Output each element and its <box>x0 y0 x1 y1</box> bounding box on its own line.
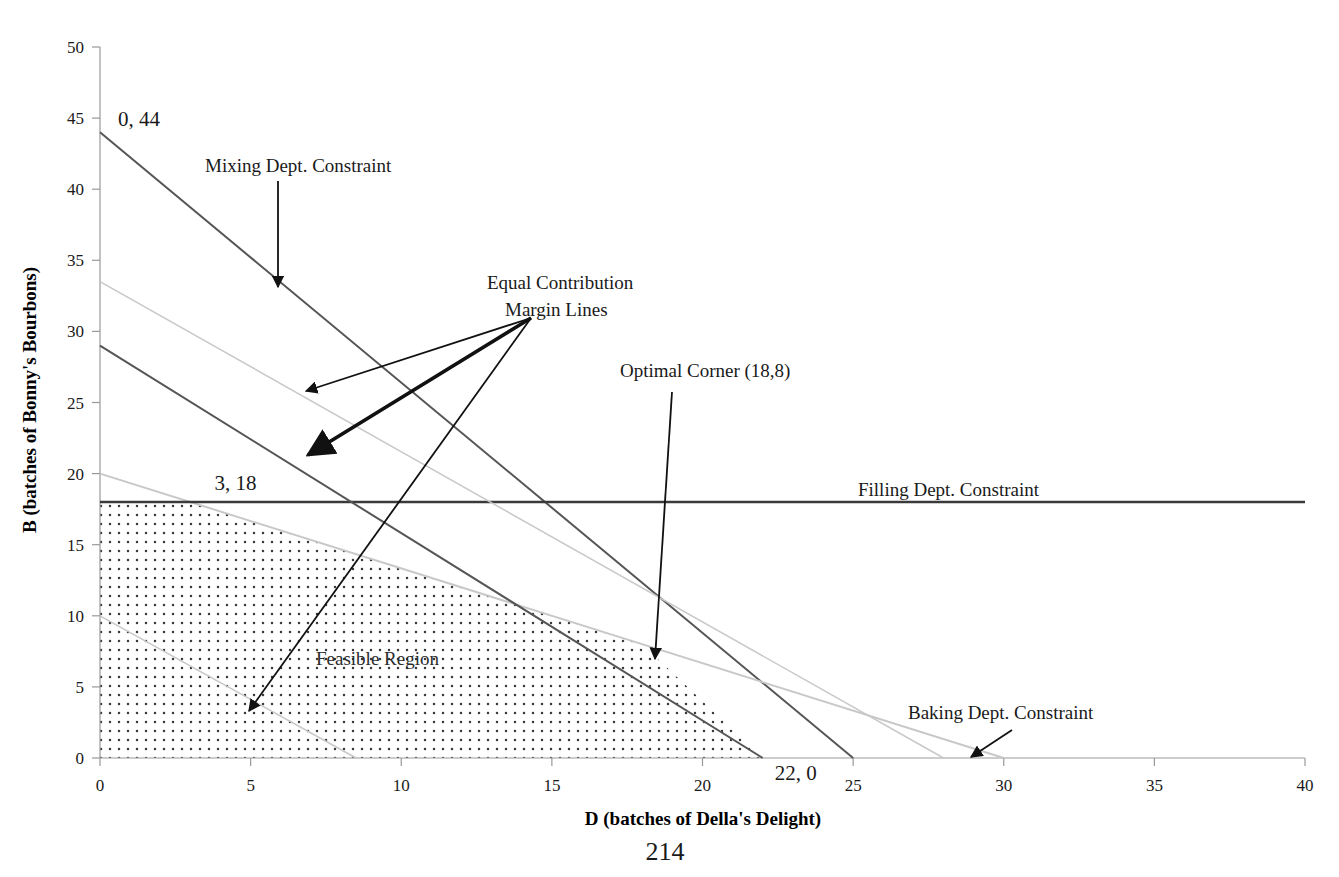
x-tick-label: 20 <box>694 776 711 795</box>
annotation-label: Equal Contribution <box>487 272 634 293</box>
corner-point-label: 0, 44 <box>118 107 161 131</box>
x-axis-ticks: 0510152025303540 <box>96 758 1314 795</box>
x-tick-label: 5 <box>246 776 255 795</box>
feasible-region-label: Feasible Region <box>316 648 439 669</box>
annotation-arrow <box>306 318 531 391</box>
annotation-label: Baking Dept. Constraint <box>908 702 1094 723</box>
annotation-arrow <box>971 730 1012 757</box>
x-tick-label: 30 <box>995 776 1012 795</box>
annotation-label: Margin Lines <box>505 299 608 320</box>
y-axis-ticks: 05101520253035404550 <box>67 38 100 768</box>
x-tick-label: 15 <box>543 776 560 795</box>
y-tick-label: 25 <box>67 394 84 413</box>
x-tick-label: 25 <box>845 776 862 795</box>
y-tick-label: 20 <box>67 465 84 484</box>
annotation-label: Mixing Dept. Constraint <box>205 155 392 176</box>
x-axis-title: D (batches of Della's Delight) <box>585 808 821 830</box>
page-number: 214 <box>646 837 685 866</box>
x-tick-label: 40 <box>1297 776 1314 795</box>
y-tick-label: 0 <box>76 749 85 768</box>
y-tick-label: 10 <box>67 607 84 626</box>
corner-point-label: 3, 18 <box>214 471 256 495</box>
corner-point-label: 22, 0 <box>775 761 817 785</box>
y-tick-label: 40 <box>67 180 84 199</box>
y-tick-label: 15 <box>67 536 84 555</box>
annotation-arrow <box>655 392 672 659</box>
x-tick-label: 35 <box>1146 776 1163 795</box>
chart-container: Feasible Region 05101520253035404550 051… <box>0 0 1339 877</box>
y-tick-label: 45 <box>67 109 84 128</box>
y-tick-label: 5 <box>76 678 85 697</box>
y-tick-label: 50 <box>67 38 84 57</box>
linear-programming-plot: Feasible Region 05101520253035404550 051… <box>0 0 1339 877</box>
x-tick-label: 10 <box>393 776 410 795</box>
annotation-label: Filling Dept. Constraint <box>858 479 1040 500</box>
x-tick-label: 0 <box>96 776 105 795</box>
y-axis-title: B (batches of Bonny's Bourbons) <box>19 267 41 533</box>
annotation-arrow <box>308 318 531 455</box>
y-tick-label: 30 <box>67 322 84 341</box>
annotation-label: Optimal Corner (18,8) <box>620 360 790 382</box>
y-tick-label: 35 <box>67 251 84 270</box>
